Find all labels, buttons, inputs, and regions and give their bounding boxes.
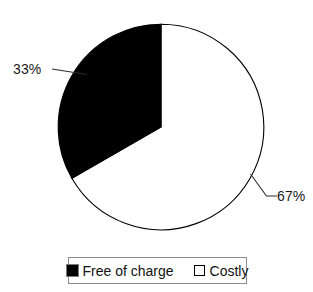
leader-line-67 — [251, 174, 278, 196]
legend-item-free-of-charge: Free of charge — [67, 264, 174, 278]
legend-swatch-outline-icon — [194, 265, 205, 276]
legend-swatch-filled-icon — [67, 265, 78, 276]
legend-label-free-of-charge: Free of charge — [83, 264, 174, 278]
chart-legend: Free of charge Costly — [68, 257, 247, 284]
pie-chart-figure: 33% 67% Free of charge Costly — [0, 0, 313, 292]
slice-value-label-67: 67% — [277, 189, 305, 203]
slice-value-label-33: 33% — [13, 62, 41, 76]
legend-item-costly: Costly — [194, 264, 249, 278]
pie-chart-graphic — [0, 0, 313, 292]
legend-label-costly: Costly — [210, 264, 249, 278]
